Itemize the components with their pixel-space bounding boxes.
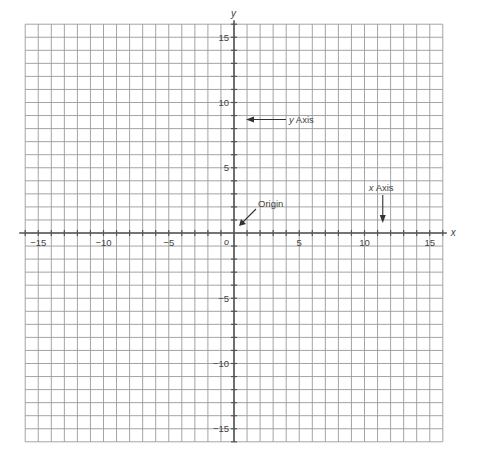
- coordinate-plane: −15−10−55101515105−5−10−15 x y o y Axis …: [0, 0, 479, 469]
- origin-label: o: [224, 237, 229, 247]
- x-tick-label: −10: [95, 237, 111, 248]
- x-tick-label: 15: [424, 237, 435, 248]
- arrowhead-down-icon: [380, 215, 386, 223]
- origin-annotation-text: Origin: [258, 198, 283, 209]
- x-tick-label: 10: [359, 237, 370, 248]
- y-tick-label: −5: [218, 293, 229, 304]
- y-tick-label: −10: [213, 358, 229, 369]
- x-axis-annotation: x Axis: [368, 182, 394, 223]
- y-tick-label: −15: [213, 423, 229, 434]
- x-tick-label: −5: [163, 237, 174, 248]
- x-axis-label: x: [450, 227, 457, 238]
- x-axis-annotation-text: x Axis: [368, 182, 394, 193]
- x-tick-label: −15: [30, 237, 46, 248]
- y-axis-label: y: [230, 8, 237, 19]
- y-tick-label: 15: [218, 32, 229, 43]
- y-axis-annotation-text: y Axis: [288, 114, 314, 125]
- y-tick-label: 5: [224, 162, 229, 173]
- x-tick-label: 5: [297, 237, 302, 248]
- y-tick-label: 10: [218, 97, 229, 108]
- coordinate-plane-diagram: −15−10−55101515105−5−10−15 x y o y Axis …: [0, 0, 479, 469]
- axes: [19, 20, 447, 442]
- down-left-arrow-icon: [242, 209, 256, 223]
- origin-annotation: Origin: [239, 198, 283, 226]
